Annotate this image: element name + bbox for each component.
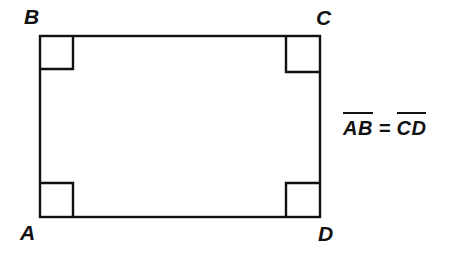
segment-cd-label: CD — [397, 112, 427, 141]
right-angle-marker-bottom-right — [286, 183, 320, 217]
vertex-label-b: B — [24, 6, 39, 27]
vertex-label-a: A — [20, 222, 35, 243]
segment-ab-label: AB — [343, 112, 373, 141]
vertex-label-d: D — [318, 223, 333, 244]
geometry-figure-canvas: B C A D AB = CD — [0, 0, 455, 260]
segment-equality-annotation: AB = CD — [343, 112, 426, 141]
right-angle-marker-top-right — [286, 37, 320, 72]
rectangle-abcd — [40, 36, 320, 217]
vertex-label-c: C — [316, 7, 331, 28]
right-angle-marker-top-left — [40, 36, 73, 69]
equals-sign: = — [373, 116, 397, 141]
right-angle-marker-bottom-left — [40, 183, 73, 217]
